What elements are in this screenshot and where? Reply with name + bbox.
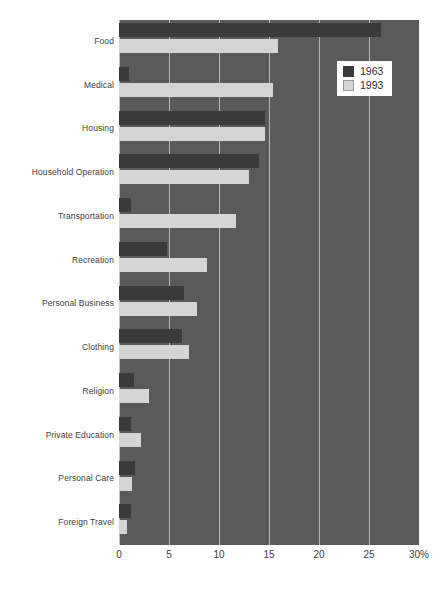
category-band [119, 108, 419, 152]
category-band [119, 501, 419, 545]
bar-1993 [119, 477, 132, 491]
y-axis-category-labels: FoodMedicalHousingHousehold OperationTra… [0, 20, 114, 545]
bar-1963 [119, 23, 381, 37]
legend-label-1993: 1993 [360, 80, 383, 91]
y-axis-label: Clothing [2, 342, 114, 352]
category-band [119, 283, 419, 327]
y-axis-label: Household Operation [2, 167, 114, 177]
y-axis-label: Food [2, 36, 114, 46]
bar-1993 [119, 83, 273, 97]
bar-1963 [119, 329, 182, 343]
bar-1993 [119, 214, 236, 228]
category-band [119, 370, 419, 414]
x-axis-tick-label: 0 [116, 549, 122, 560]
category-band [119, 239, 419, 283]
category-band [119, 20, 419, 64]
category-band [119, 458, 419, 502]
category-band [119, 195, 419, 239]
bar-1993 [119, 302, 197, 316]
bar-1993 [119, 258, 207, 272]
y-axis-label: Housing [2, 123, 114, 133]
y-axis-label: Personal Business [2, 298, 114, 308]
bar-1993 [119, 389, 149, 403]
y-axis-label: Personal Care [2, 473, 114, 483]
x-axis-tick-label: 25 [363, 549, 374, 560]
plot-area [119, 20, 419, 545]
x-axis-tick-label: 5 [166, 549, 172, 560]
bar-1963 [119, 198, 131, 212]
bar-1993 [119, 127, 265, 141]
bar-1993 [119, 520, 127, 534]
x-axis-tick-label: 10 [213, 549, 224, 560]
category-band [119, 326, 419, 370]
y-axis-label: Foreign Travel [2, 517, 114, 527]
x-axis-tick-labels: 051015202530% [119, 549, 439, 569]
bar-1963 [119, 67, 129, 81]
bar-1963 [119, 461, 135, 475]
legend-item: 1963 [343, 66, 383, 77]
bar-chart: FoodMedicalHousingHousehold OperationTra… [0, 0, 445, 591]
legend-swatch-1963-icon [343, 66, 354, 77]
y-axis-label: Private Education [2, 430, 114, 440]
bar-1963 [119, 242, 167, 256]
legend-swatch-1993-icon [343, 80, 354, 91]
bar-1993 [119, 433, 141, 447]
bar-1993 [119, 39, 278, 53]
bar-1963 [119, 373, 134, 387]
bar-1963 [119, 154, 259, 168]
legend-item: 1993 [343, 80, 383, 91]
bar-1993 [119, 170, 249, 184]
y-axis-label: Religion [2, 386, 114, 396]
category-band [119, 414, 419, 458]
bar-1963 [119, 504, 131, 518]
bar-1993 [119, 345, 189, 359]
x-axis-tick-label: 20 [313, 549, 324, 560]
category-band [119, 151, 419, 195]
y-axis-label: Recreation [2, 255, 114, 265]
bar-1963 [119, 417, 131, 431]
bar-1963 [119, 286, 184, 300]
legend-label-1963: 1963 [360, 66, 383, 77]
y-axis-label: Medical [2, 80, 114, 90]
chart-legend: 1963 1993 [337, 61, 392, 96]
x-axis-tick-label: 15 [263, 549, 274, 560]
bar-1963 [119, 111, 265, 125]
x-axis-tick-label: 30% [409, 549, 429, 560]
y-axis-label: Transportation [2, 211, 114, 221]
